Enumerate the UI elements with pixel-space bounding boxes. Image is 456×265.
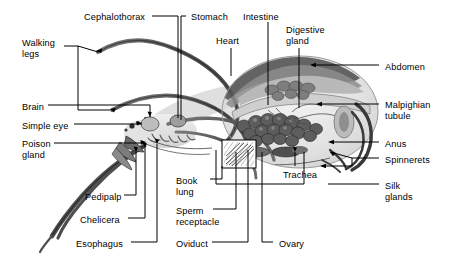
label-ovary: Ovary xyxy=(279,239,304,250)
walking-legs-leader2 xyxy=(78,46,98,52)
label-malpighian-tubule: Malpighian tubule xyxy=(385,100,430,121)
ovary-leader xyxy=(262,152,273,242)
label-book-lung: Book lung xyxy=(176,176,197,197)
book-lung-detail-box xyxy=(222,140,256,168)
walking-legs-leader xyxy=(64,46,110,110)
label-esophagus: Esophagus xyxy=(76,239,123,250)
label-spinnerets: Spinnerets xyxy=(385,155,430,166)
brain-leader xyxy=(48,105,150,117)
label-pedipalp: Pedipalp xyxy=(85,192,122,203)
cephalothorax-leader xyxy=(152,16,178,118)
label-walking-legs: Walking legs xyxy=(22,38,55,59)
label-chelicera: Chelicera xyxy=(80,215,120,226)
label-digestive-gland: Digestive gland xyxy=(286,25,325,46)
label-abdomen: Abdomen xyxy=(385,62,425,73)
label-heart: Heart xyxy=(216,36,239,47)
spider-anatomy-figure: CephalothoraxStomachIntestineDigestive g… xyxy=(0,0,456,265)
label-anus: Anus xyxy=(385,139,406,150)
label-stomach: Stomach xyxy=(191,12,228,23)
label-sperm-receptacle: Sperm receptacle xyxy=(176,206,219,227)
label-poison-gland: Poison gland xyxy=(22,139,51,160)
label-brain: Brain xyxy=(22,102,44,113)
label-intestine: Intestine xyxy=(243,12,279,23)
label-cephalothorax: Cephalothorax xyxy=(84,12,145,23)
label-silk-glands: Silk glands xyxy=(385,181,413,202)
label-simple-eye: Simple eye xyxy=(22,121,68,132)
label-oviduct: Oviduct xyxy=(176,239,208,250)
label-trachea: Trachea xyxy=(283,170,317,181)
